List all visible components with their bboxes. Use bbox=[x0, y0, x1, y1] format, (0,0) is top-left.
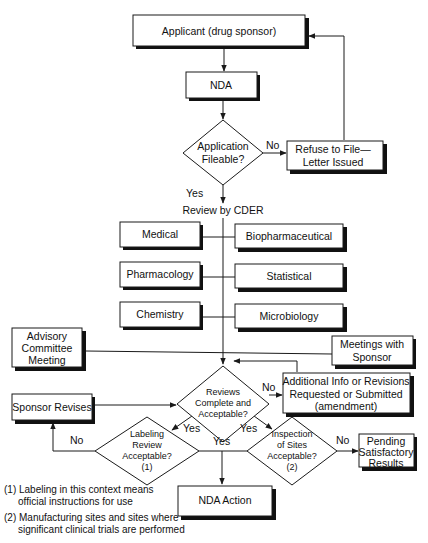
edge-label-labeling-yes: Yes bbox=[213, 435, 230, 447]
inspection-line3: Acceptable? bbox=[267, 451, 317, 461]
nda-action-label: NDA Action bbox=[198, 494, 251, 506]
footnote-2-line1: (2) Manufacturing sites and sites where bbox=[4, 512, 179, 523]
review-by-cder-label: Review by CDER bbox=[182, 204, 264, 216]
node-sponsor-revises: Sponsor Revises bbox=[12, 394, 95, 424]
footnote-1: (1) Labeling in this context means offic… bbox=[4, 484, 154, 508]
refuse-line1: Refuse to File— bbox=[295, 143, 371, 155]
inspection-line4: (2) bbox=[287, 462, 298, 472]
pharmacology-label: Pharmacology bbox=[126, 268, 194, 280]
footnote-2: (2) Manufacturing sites and sites where … bbox=[4, 512, 185, 536]
reviews-line1: Reviews bbox=[206, 387, 241, 397]
edge-refuse-applicant bbox=[309, 36, 344, 140]
node-applicant: Applicant (drug sponsor) bbox=[133, 15, 309, 49]
footnote-1-line2: official instructions for use bbox=[4, 496, 154, 508]
edge-label-inspection-no: No bbox=[336, 434, 350, 446]
node-refuse-to-file: Refuse to File— Letter Issued bbox=[287, 141, 387, 174]
additional-line2: Requested or Submitted bbox=[289, 388, 402, 400]
footnote-1-line1: (1) Labeling in this context means bbox=[4, 484, 154, 495]
statistical-label: Statistical bbox=[267, 270, 312, 282]
pending-line3: Results bbox=[368, 457, 403, 469]
labeling-line2: Review bbox=[132, 440, 162, 450]
additional-line3: (amendment) bbox=[315, 400, 377, 412]
node-application-fileable: Application Fileable? bbox=[183, 120, 263, 185]
reviews-line2: Complete and bbox=[195, 398, 251, 408]
inspection-line1: Inspection bbox=[271, 429, 312, 439]
node-additional-info: Additional Info or Revisions Requested o… bbox=[282, 373, 414, 417]
edge-label-reviews-no: No bbox=[262, 381, 276, 393]
node-microbiology: Microbiology bbox=[235, 304, 347, 332]
node-pharmacology: Pharmacology bbox=[120, 262, 203, 290]
microbiology-label: Microbiology bbox=[260, 310, 320, 322]
edge-label-reviews-yes-right: Yes bbox=[240, 422, 257, 434]
connector-advisory-meetings bbox=[86, 351, 332, 354]
footnote-2-line2: significant clinical trials are performe… bbox=[4, 524, 185, 536]
edge-label-reviews-yes-left: Yes bbox=[183, 422, 200, 434]
biopharmaceutical-label: Biopharmaceutical bbox=[246, 230, 332, 242]
node-nda-action: NDA Action bbox=[178, 486, 276, 520]
labeling-line3: Acceptable? bbox=[122, 451, 172, 461]
medical-label: Medical bbox=[142, 228, 178, 240]
additional-line1: Additional Info or Revisions bbox=[282, 375, 409, 387]
inspection-line2: of Sites bbox=[277, 440, 308, 450]
edge-label-labeling-no: No bbox=[70, 434, 84, 446]
node-pending-results: Pending Satisfactory Results bbox=[359, 434, 417, 471]
meetings-line2: Sponsor bbox=[352, 351, 392, 363]
node-biopharmaceutical: Biopharmaceutical bbox=[235, 224, 347, 252]
applicant-label: Applicant (drug sponsor) bbox=[162, 25, 276, 37]
edge-additional-reviews bbox=[234, 361, 297, 372]
edge-label-fileable-no: No bbox=[266, 139, 280, 151]
node-advisory-committee: Advisory Committee Meeting bbox=[12, 328, 86, 371]
node-inspection-of-sites: Inspection of Sites Acceptable? (2) bbox=[247, 417, 337, 485]
nda-review-flowchart: Applicant (drug sponsor) NDA Application… bbox=[0, 0, 428, 543]
refuse-line2: Letter Issued bbox=[303, 156, 364, 168]
reviews-line3: Acceptable? bbox=[198, 409, 248, 419]
nda-label: NDA bbox=[210, 79, 232, 91]
node-medical: Medical bbox=[120, 222, 203, 250]
labeling-line1: Labeling bbox=[130, 429, 164, 439]
chemistry-label: Chemistry bbox=[136, 308, 184, 320]
node-chemistry: Chemistry bbox=[120, 302, 203, 330]
fileable-line1: Application bbox=[197, 140, 249, 152]
fileable-line2: Fileable? bbox=[202, 153, 245, 165]
node-nda: NDA bbox=[186, 72, 260, 101]
advisory-line3: Meeting bbox=[28, 354, 66, 366]
labeling-line4: (1) bbox=[142, 462, 153, 472]
edge-label-fileable-yes: Yes bbox=[186, 187, 203, 199]
meetings-line1: Meetings with bbox=[340, 338, 404, 350]
advisory-line2: Committee bbox=[22, 342, 73, 354]
node-meetings-with-sponsor: Meetings with Sponsor bbox=[332, 336, 416, 369]
node-statistical: Statistical bbox=[235, 264, 347, 292]
advisory-line1: Advisory bbox=[27, 330, 68, 342]
sponsor-revises-label: Sponsor Revises bbox=[12, 401, 91, 413]
